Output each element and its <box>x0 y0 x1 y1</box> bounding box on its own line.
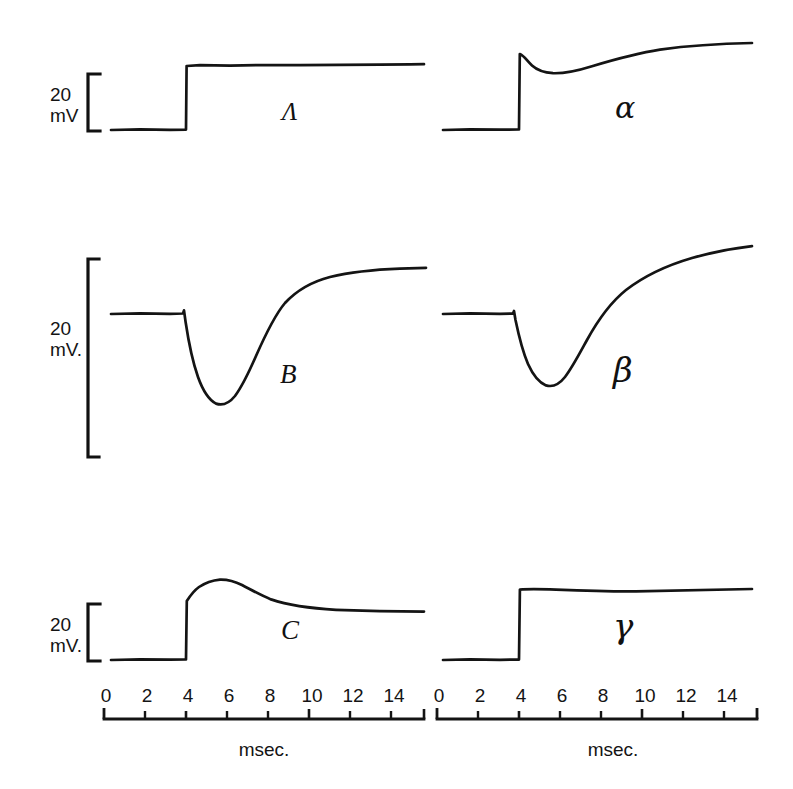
trace-panel-beta <box>443 246 752 386</box>
trace-panel-B <box>111 268 426 405</box>
left-axis-tick-8: 8 <box>265 686 276 705</box>
panel-label-B: B <box>280 361 297 388</box>
scale-bracket-row2 <box>88 259 99 457</box>
scale-label-row1-unit: mV <box>50 105 79 126</box>
right-axis-tick-14: 14 <box>716 686 737 705</box>
right-axis-caption: msec. <box>588 740 639 759</box>
panel-label-alpha: α <box>615 93 635 123</box>
scale-bracket-row1 <box>88 74 100 131</box>
waveform-plot-svg <box>0 0 793 789</box>
left-axis-tick-10: 10 <box>301 686 322 705</box>
panel-label-beta: β <box>613 353 633 387</box>
scale-bracket-row3 <box>88 604 100 661</box>
left-axis-tick-4: 4 <box>183 686 194 705</box>
panel-label-gamma: γ <box>613 609 633 643</box>
right-axis-tick-2: 2 <box>475 686 486 705</box>
right-axis-tick-0: 0 <box>434 686 445 705</box>
figure-canvas: 20mV 20mV. 20mV. Λ α B β C γ 0 2 4 6 8 1… <box>0 0 793 789</box>
trace-panel-A <box>111 64 424 130</box>
trace-panel-C <box>111 580 424 660</box>
scale-label-row3-value: 20 <box>50 614 71 635</box>
right-time-axis <box>437 708 757 719</box>
trace-panel-gamma <box>443 589 752 660</box>
scale-label-row2-unit: mV. <box>50 339 82 360</box>
right-axis-tick-6: 6 <box>557 686 568 705</box>
panel-label-A: Λ <box>282 99 297 124</box>
right-axis-tick-10: 10 <box>634 686 655 705</box>
left-axis-tick-12: 12 <box>342 686 363 705</box>
left-time-axis <box>104 708 424 719</box>
scale-label-row2: 20mV. <box>50 318 82 360</box>
scale-label-row3: 20mV. <box>50 614 82 656</box>
scale-label-row2-value: 20 <box>50 318 71 339</box>
right-axis-tick-12: 12 <box>675 686 696 705</box>
scale-label-row1-value: 20 <box>50 84 71 105</box>
left-axis-tick-0: 0 <box>101 686 112 705</box>
left-axis-caption: msec. <box>239 740 290 759</box>
scale-label-row3-unit: mV. <box>50 635 82 656</box>
right-axis-tick-4: 4 <box>516 686 527 705</box>
left-axis-tick-14: 14 <box>383 686 404 705</box>
panel-label-C: C <box>281 617 299 644</box>
left-axis-tick-6: 6 <box>224 686 235 705</box>
left-axis-tick-2: 2 <box>142 686 153 705</box>
scale-label-row1: 20mV <box>50 84 79 126</box>
right-axis-tick-8: 8 <box>598 686 609 705</box>
trace-panel-alpha <box>443 43 752 130</box>
